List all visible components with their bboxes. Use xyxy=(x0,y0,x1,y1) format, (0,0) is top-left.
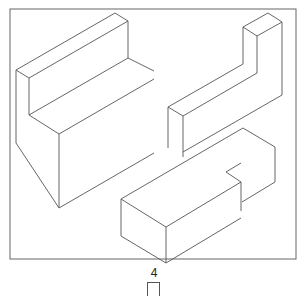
isometric-drawing xyxy=(0,0,308,296)
l-shaped-block-right xyxy=(168,13,282,157)
notched-block-bottom xyxy=(121,128,275,263)
answer-box xyxy=(147,282,160,296)
figure-number-label: 4 xyxy=(148,266,160,280)
l-shaped-block-left xyxy=(16,13,154,208)
